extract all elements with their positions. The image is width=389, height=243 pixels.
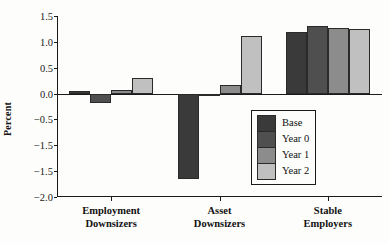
bar-year-1-2 (220, 85, 241, 94)
y-tick-label: −1.5 (34, 166, 53, 177)
y-axis-line (57, 16, 58, 197)
bar-year-2-2 (241, 36, 262, 93)
legend-swatch-year-2 (258, 163, 275, 179)
x-tick-mark (328, 197, 329, 201)
legend-label-column: BaseYear 0Year 1Year 2 (282, 115, 309, 180)
x-category-line: Employers (304, 218, 352, 231)
legend-swatch-base (258, 116, 275, 131)
y-tick-mark (54, 171, 57, 172)
bar-year-1-3 (328, 28, 349, 94)
y-tick-mark (54, 119, 57, 120)
y-tick-mark (54, 16, 57, 17)
legend-swatch-column (257, 115, 276, 180)
bar-year-0-3 (307, 26, 328, 93)
plot-area: 1.51.00.50.0−0.5−1.5−1.5−2.0 (57, 16, 382, 197)
x-tick-mark (111, 197, 112, 201)
x-category-label-1: EmploymentDownsizers (82, 205, 140, 230)
legend-label-year-1: Year 1 (282, 147, 309, 163)
bar-year-0-1 (90, 94, 111, 103)
y-tick-label: 1.5 (40, 11, 53, 22)
y-tick-mark (54, 94, 57, 95)
y-tick-mark (54, 145, 57, 146)
legend-label-year-2: Year 2 (282, 163, 309, 179)
x-category-line: Asset (194, 205, 245, 218)
bar-chart: Percent 1.51.00.50.0−0.5−1.5−1.5−2.0 Emp… (0, 0, 389, 243)
legend: BaseYear 0Year 1Year 2 (251, 110, 316, 185)
bar-year-2-1 (132, 78, 153, 94)
x-category-line: Downsizers (194, 218, 245, 231)
y-tick-label: 0.0 (40, 88, 53, 99)
y-tick-mark (54, 197, 57, 198)
legend-label-base: Base (282, 115, 309, 131)
x-tick-mark (220, 197, 221, 201)
bar-year-2-3 (349, 29, 370, 94)
bar-year-0-2 (199, 94, 220, 96)
y-tick-label: 1.0 (40, 36, 53, 47)
bar-year-1-1 (111, 90, 132, 94)
y-tick-mark (54, 68, 57, 69)
x-category-line: Stable (304, 205, 352, 218)
legend-label-year-0: Year 0 (282, 131, 309, 147)
legend-swatch-year-1 (258, 147, 275, 163)
y-tick-label: 0.5 (40, 62, 53, 73)
x-category-label-2: AssetDownsizers (194, 205, 245, 230)
y-tick-label: −1.5 (34, 140, 53, 151)
x-category-label-3: StableEmployers (304, 205, 352, 230)
y-tick-label: −2.0 (34, 192, 53, 203)
legend-swatch-year-0 (258, 131, 275, 147)
y-axis-title: Percent (0, 84, 14, 154)
x-category-line: Downsizers (82, 218, 140, 231)
y-tick-mark (54, 42, 57, 43)
bar-base-1 (69, 91, 90, 94)
y-tick-label: −0.5 (34, 114, 53, 125)
bar-base-2 (178, 94, 199, 179)
x-category-line: Employment (82, 205, 140, 218)
bar-base-3 (286, 32, 307, 94)
